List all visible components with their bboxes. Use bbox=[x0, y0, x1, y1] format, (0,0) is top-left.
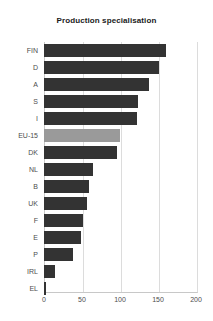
category-label-d: D bbox=[0, 59, 41, 76]
bar-i bbox=[44, 112, 137, 125]
bar-row bbox=[44, 280, 197, 297]
category-label-p: P bbox=[0, 246, 41, 263]
bar-row bbox=[44, 212, 197, 229]
chart-title: Production specialisation bbox=[0, 16, 213, 26]
bar-d bbox=[44, 61, 159, 74]
category-label-el: EL bbox=[0, 280, 41, 297]
bar-row bbox=[44, 246, 197, 263]
bar-row bbox=[44, 161, 197, 178]
category-label-eu-15: EU-15 bbox=[0, 127, 41, 144]
category-label-irl: IRL bbox=[0, 263, 41, 280]
bar-row bbox=[44, 144, 197, 161]
category-label-a: A bbox=[0, 76, 41, 93]
bar-b bbox=[44, 180, 89, 193]
bar-dk bbox=[44, 146, 117, 159]
bars-layer bbox=[44, 42, 197, 292]
category-label-i: I bbox=[0, 110, 41, 127]
category-label-uk: UK bbox=[0, 195, 41, 212]
category-axis-labels: FINDASIEU-15DKNLBUKFEPIRLEL bbox=[0, 42, 41, 292]
bar-chart: Production specialisation FINDASIEU-15DK… bbox=[0, 0, 213, 321]
bar-irl bbox=[44, 265, 55, 278]
bar-a bbox=[44, 78, 149, 91]
value-axis-labels: 050100150200 bbox=[0, 296, 213, 310]
category-label-f: F bbox=[0, 212, 41, 229]
bar-row bbox=[44, 263, 197, 280]
bar-row bbox=[44, 42, 197, 59]
bar-row bbox=[44, 76, 197, 93]
bar-row bbox=[44, 110, 197, 127]
bar-s bbox=[44, 95, 138, 108]
bar-fin bbox=[44, 44, 166, 57]
category-label-e: E bbox=[0, 229, 41, 246]
bar-nl bbox=[44, 163, 93, 176]
category-label-nl: NL bbox=[0, 161, 41, 178]
xtick-label-100: 100 bbox=[114, 296, 126, 303]
bar-e bbox=[44, 231, 81, 244]
category-label-dk: DK bbox=[0, 144, 41, 161]
bar-row bbox=[44, 93, 197, 110]
category-label-s: S bbox=[0, 93, 41, 110]
bar-row bbox=[44, 178, 197, 195]
bar-el bbox=[44, 282, 46, 295]
bar-uk bbox=[44, 197, 87, 210]
xtick-label-150: 150 bbox=[152, 296, 164, 303]
bar-f bbox=[44, 214, 83, 227]
bar-row bbox=[44, 195, 197, 212]
bar-eu-15 bbox=[44, 129, 120, 142]
category-label-b: B bbox=[0, 178, 41, 195]
category-label-fin: FIN bbox=[0, 42, 41, 59]
bar-row bbox=[44, 127, 197, 144]
bar-row bbox=[44, 59, 197, 76]
gridline bbox=[197, 42, 198, 292]
bar-row bbox=[44, 229, 197, 246]
xtick-label-50: 50 bbox=[78, 296, 86, 303]
bar-p bbox=[44, 248, 73, 261]
xtick-label-200: 200 bbox=[190, 296, 202, 303]
xtick-label-0: 0 bbox=[42, 296, 46, 303]
